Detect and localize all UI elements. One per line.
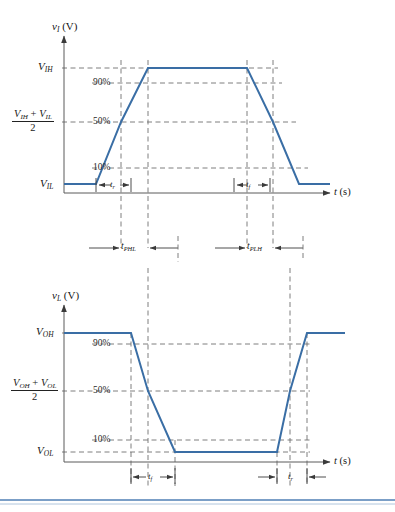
label-voh: VOH (36, 325, 54, 339)
x-axis-label-top: t (s) (334, 186, 351, 197)
x-axis-label-bottom: t (s) (334, 455, 351, 466)
figure-root: vI (V) t (s) VIH VIL VIH + VIL 2 90% 50%… (0, 0, 395, 512)
label-vil: VIL (40, 177, 53, 191)
chart-input-waveform (62, 36, 330, 262)
label-tf-bottom: tf (148, 471, 152, 482)
label-50pct-bottom: 50% (93, 385, 110, 395)
label-vol: VOL (37, 444, 53, 458)
label-tf-top: tf (246, 179, 250, 190)
label-tplh: tPLH (247, 241, 262, 252)
label-input-midpoint: VIH + VIL 2 (12, 108, 54, 133)
label-output-midpoint: VOH + VOL 2 (11, 377, 58, 402)
label-50pct-top: 50% (93, 116, 110, 126)
label-90pct-bottom: 90% (93, 338, 110, 348)
label-90pct-top: 90% (93, 77, 110, 87)
label-tr-bottom: tr (288, 471, 293, 482)
y-axis-label-bottom: vL (V) (52, 289, 79, 303)
chart-output-waveform (62, 268, 345, 486)
y-axis-label-top: vI (V) (52, 20, 77, 34)
label-tphl: tPHL (121, 241, 136, 252)
label-vih: VIH (38, 60, 53, 74)
waveform-figure (0, 0, 395, 512)
label-10pct-top: 10% (93, 162, 110, 172)
label-10pct-bottom: 10% (93, 434, 110, 444)
label-tr-top: tr (110, 179, 115, 190)
